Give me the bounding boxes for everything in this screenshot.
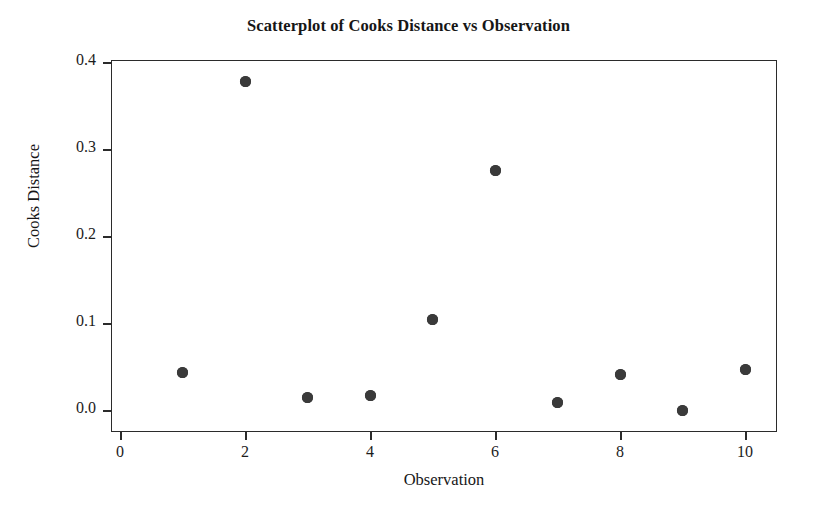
y-axis-tick-label: 0.2 bbox=[38, 225, 96, 243]
x-axis-tick bbox=[120, 432, 122, 440]
y-axis-tick-label: 0.0 bbox=[38, 399, 96, 417]
y-axis-tick-label: 0.1 bbox=[38, 312, 96, 330]
y-axis-tick bbox=[103, 410, 111, 412]
x-axis-tick bbox=[245, 432, 247, 440]
page-title: Scatterplot of Cooks Distance vs Observa… bbox=[0, 16, 817, 36]
x-axis-tick-label: 10 bbox=[715, 443, 775, 461]
x-axis-tick-label: 8 bbox=[590, 443, 650, 461]
x-axis-tick bbox=[620, 432, 622, 440]
y-axis-tick bbox=[103, 149, 111, 151]
x-axis-tick bbox=[745, 432, 747, 440]
y-axis-tick bbox=[103, 62, 111, 64]
scatterplot-figure: Scatterplot of Cooks Distance vs Observa… bbox=[0, 0, 817, 514]
x-axis-tick bbox=[370, 432, 372, 440]
y-axis-tick bbox=[103, 323, 111, 325]
y-axis-label: Cooks Distance bbox=[24, 66, 44, 326]
plot-frame bbox=[111, 60, 777, 432]
y-axis-tick-label: 0.3 bbox=[38, 138, 96, 156]
y-axis-tick-label: 0.4 bbox=[38, 51, 96, 69]
x-axis-tick bbox=[495, 432, 497, 440]
x-axis-label: Observation bbox=[111, 470, 777, 490]
x-axis-tick-label: 0 bbox=[90, 443, 150, 461]
y-axis-tick bbox=[103, 236, 111, 238]
x-axis-tick-label: 4 bbox=[340, 443, 400, 461]
x-axis-tick-label: 2 bbox=[215, 443, 275, 461]
x-axis-tick-label: 6 bbox=[465, 443, 525, 461]
